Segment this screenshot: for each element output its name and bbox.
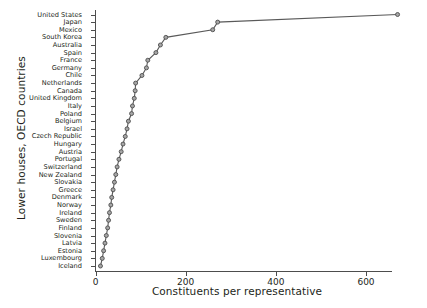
data-point	[123, 134, 127, 138]
data-point	[98, 264, 102, 268]
data-point	[100, 256, 104, 260]
data-point	[125, 127, 129, 131]
data-series	[0, 0, 427, 308]
data-point	[133, 89, 137, 93]
data-point	[146, 58, 150, 62]
data-point	[102, 249, 106, 253]
data-point	[109, 203, 113, 207]
data-point	[134, 81, 138, 85]
data-point	[104, 234, 108, 238]
data-point	[117, 157, 121, 161]
data-point	[121, 142, 125, 146]
data-point	[211, 28, 215, 32]
data-point	[130, 104, 134, 108]
series-markers	[98, 13, 399, 269]
data-point	[132, 96, 136, 100]
data-point	[111, 188, 115, 192]
chart-figure: Lower houses, OECD countries United Stat…	[0, 0, 427, 308]
data-point	[112, 180, 116, 184]
data-point	[130, 112, 134, 116]
data-point	[103, 241, 107, 245]
data-point	[396, 13, 400, 17]
data-point	[140, 73, 144, 77]
data-point	[110, 195, 114, 199]
series-line	[100, 15, 397, 267]
data-point	[106, 226, 110, 230]
data-point	[107, 218, 111, 222]
data-point	[144, 66, 148, 70]
data-point	[126, 119, 130, 123]
data-point	[115, 165, 119, 169]
data-point	[107, 211, 111, 215]
data-point	[154, 51, 158, 55]
data-point	[119, 150, 123, 154]
data-point	[158, 43, 162, 47]
data-point	[164, 35, 168, 39]
data-point	[114, 173, 118, 177]
data-point	[216, 20, 220, 24]
